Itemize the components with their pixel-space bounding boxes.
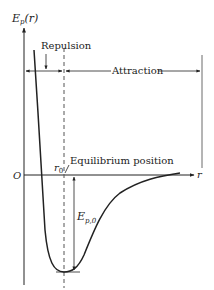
x-axis-label: r: [197, 169, 203, 180]
attraction-label: Attraction: [111, 65, 164, 76]
well-depth-label: Ep,0: [76, 210, 97, 225]
potential-energy-diagram: Ep(r) r O Repulsion Attraction r0 Equili…: [0, 0, 214, 290]
repulsion-label: Repulsion: [41, 40, 92, 51]
origin-label: O: [13, 170, 21, 181]
r0-pointer: [65, 165, 69, 173]
r0-label: r0: [54, 162, 63, 175]
y-axis-label: Ep(r): [11, 12, 38, 26]
equilibrium-label: Equilibrium position: [70, 155, 174, 166]
